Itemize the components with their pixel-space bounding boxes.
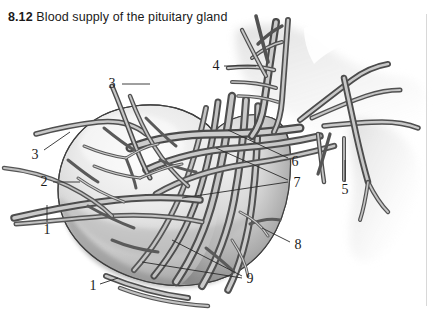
label-3-upper: 3 [109,77,116,91]
page-margin-rule [426,14,427,306]
label-1-left: 1 [44,223,51,237]
label-2: 2 [41,175,48,189]
leader-3-lower [44,132,70,150]
figure-container: 8.12 Blood supply of the pituitary gland [0,0,434,314]
label-8: 8 [295,238,302,252]
label-5: 5 [342,183,349,197]
label-3-lower: 3 [32,148,39,162]
label-4: 4 [213,59,220,73]
label-9: 9 [247,272,254,286]
pituitary-blood-supply-illustration [0,0,434,314]
label-7: 7 [294,176,301,190]
label-1-bottom: 1 [90,279,97,293]
label-6: 6 [292,155,299,169]
